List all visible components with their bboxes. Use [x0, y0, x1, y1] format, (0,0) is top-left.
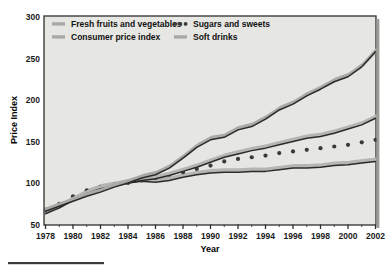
data-point [346, 143, 350, 147]
x-tick-label: 1992 [229, 231, 248, 241]
data-point [291, 149, 295, 153]
x-tick-label: 2000 [339, 231, 358, 241]
data-point [305, 148, 309, 152]
data-point [236, 157, 240, 161]
legend-label: Sugars and sweets [193, 19, 270, 29]
chart-figure: 50100150200250300 1978198019821984198619… [0, 0, 390, 271]
data-point [250, 155, 254, 159]
legend-label: Soft drinks [193, 32, 238, 42]
y-tick-label: 250 [26, 54, 40, 64]
legend-label: Consumer price index [71, 32, 161, 42]
x-tick-label: 1978 [36, 231, 55, 241]
y-axis-title: Price Index [9, 96, 19, 144]
data-point [277, 151, 281, 155]
y-tick-label: 150 [26, 137, 40, 147]
legend-label: Fresh fruits and vegetables [71, 19, 182, 29]
data-point [318, 146, 322, 150]
y-tick-label: 200 [26, 95, 40, 105]
footer-rule [8, 262, 104, 264]
x-tick-label: 1990 [201, 231, 220, 241]
data-point [332, 144, 336, 148]
data-point [263, 154, 267, 158]
x-tick-label: 1986 [146, 231, 165, 241]
data-point [360, 140, 364, 144]
y-tick-label: 300 [26, 12, 40, 22]
legend-dots-swatch-icon [173, 22, 177, 26]
data-point [222, 159, 226, 163]
x-tick-label: 1982 [91, 231, 110, 241]
panel-shadow-right [376, 19, 379, 228]
x-tick-label: 1998 [311, 231, 330, 241]
x-tick-label: 1996 [284, 231, 303, 241]
x-axis-title: Year [200, 244, 220, 254]
legend-dots-swatch-icon [179, 22, 183, 26]
legend-dots-swatch-icon [184, 22, 188, 26]
x-tick-label: 1994 [256, 231, 275, 241]
x-tick-label: 1988 [174, 231, 193, 241]
y-tick-label: 50 [31, 220, 41, 230]
legend-entry: Fresh fruits and vegetables [52, 19, 182, 29]
x-tick-label: 1980 [64, 231, 83, 241]
y-tick-label: 100 [26, 178, 40, 188]
x-tick-label: 2002 [366, 231, 385, 241]
price-index-line-chart: 50100150200250300 1978198019821984198619… [0, 0, 390, 271]
x-tick-label: 1984 [119, 231, 138, 241]
data-point [208, 163, 212, 167]
